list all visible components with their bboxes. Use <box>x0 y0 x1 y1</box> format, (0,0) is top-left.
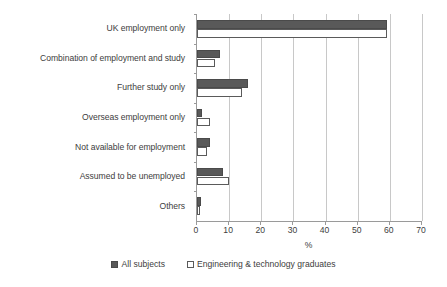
gridline <box>326 14 327 221</box>
x-tick-label: 60 <box>384 225 394 235</box>
x-tick-label: 70 <box>416 225 426 235</box>
category-tick <box>194 73 197 74</box>
bar-engineering <box>197 118 210 127</box>
chart-legend: All subjects Engineering & technology gr… <box>0 259 447 269</box>
category-label: Assumed to be unemployed <box>0 162 192 192</box>
x-tick-label: 30 <box>288 225 298 235</box>
bar-all-subjects <box>197 109 202 118</box>
bar-engineering <box>197 147 207 156</box>
legend-label: All subjects <box>121 259 164 269</box>
category-tick <box>194 132 197 133</box>
gridline <box>358 14 359 221</box>
category-label: Overseas employment only <box>0 103 192 133</box>
category-tick <box>194 103 197 104</box>
x-tick <box>389 221 390 225</box>
category-label: Further study only <box>0 73 192 103</box>
category-tick <box>194 44 197 45</box>
bar-engineering <box>197 88 242 97</box>
category-label: Combination of employment and study <box>0 44 192 74</box>
legend-item-all-subjects: All subjects <box>111 259 164 269</box>
category-tick <box>194 14 197 15</box>
bar-all-subjects <box>197 20 387 29</box>
x-tick-label: 40 <box>320 225 330 235</box>
bar-engineering <box>197 29 387 38</box>
x-tick-label: 20 <box>256 225 266 235</box>
gridline <box>261 14 262 221</box>
x-tick-label: 50 <box>352 225 362 235</box>
legend-label: Engineering & technology graduates <box>197 259 336 269</box>
bar-engineering <box>197 177 229 186</box>
category-label: UK employment only <box>0 14 192 44</box>
x-tick <box>325 221 326 225</box>
plot-area <box>196 14 421 221</box>
gridline <box>293 14 294 221</box>
x-tick <box>357 221 358 225</box>
category-tick <box>194 162 197 163</box>
gridline <box>390 14 391 221</box>
x-tick-label: 10 <box>223 225 233 235</box>
bar-engineering <box>197 206 200 215</box>
category-label: Not available for employment <box>0 132 192 162</box>
x-axis-title: % <box>196 240 421 250</box>
gridline <box>422 14 423 221</box>
x-tick-label: 0 <box>194 225 199 235</box>
x-tick <box>196 221 197 225</box>
category-label: Others <box>0 191 192 221</box>
legend-swatch-icon <box>187 261 194 268</box>
bar-engineering <box>197 59 215 68</box>
category-axis: UK employment only Combination of employ… <box>0 14 192 221</box>
x-tick <box>292 221 293 225</box>
bar-all-subjects <box>197 50 220 59</box>
x-tick <box>228 221 229 225</box>
legend-swatch-icon <box>111 261 118 268</box>
bar-chart: UK employment only Combination of employ… <box>0 0 447 287</box>
bar-all-subjects <box>197 79 248 88</box>
x-tick-labels: 010203040506070 <box>196 225 421 239</box>
gridline <box>229 14 230 221</box>
x-tick <box>421 221 422 225</box>
category-tick <box>194 191 197 192</box>
bar-all-subjects <box>197 197 201 206</box>
legend-item-engineering: Engineering & technology graduates <box>187 259 336 269</box>
bar-all-subjects <box>197 168 223 177</box>
x-axis-line <box>196 221 421 222</box>
bar-all-subjects <box>197 138 210 147</box>
x-tick <box>260 221 261 225</box>
